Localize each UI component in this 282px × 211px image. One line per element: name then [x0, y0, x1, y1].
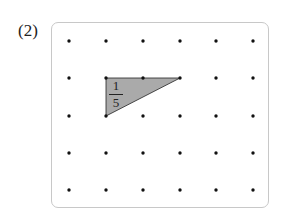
grid-dot — [251, 76, 254, 79]
grid-dot — [178, 114, 181, 117]
grid-dot — [251, 188, 254, 191]
grid-dot — [178, 188, 181, 191]
grid-dot — [214, 151, 217, 154]
grid-dot — [67, 76, 70, 79]
grid-dot — [141, 188, 144, 191]
grid-dot — [104, 151, 107, 154]
grid-dot — [104, 114, 107, 117]
grid-dot — [214, 76, 217, 79]
fraction-numerator: 1 — [113, 78, 120, 93]
grid-dot — [141, 114, 144, 117]
grid-dot — [251, 39, 254, 42]
grid-dot — [67, 114, 70, 117]
grid-dot — [141, 151, 144, 154]
grid-dot — [178, 151, 181, 154]
grid-dot — [251, 151, 254, 154]
grid-dot — [67, 151, 70, 154]
fraction-denominator: 5 — [113, 95, 120, 110]
grid-dot — [141, 39, 144, 42]
grid-dot — [251, 114, 254, 117]
grid-dot — [214, 39, 217, 42]
grid-dot — [141, 76, 144, 79]
grid-dots — [67, 39, 254, 191]
dot-grid-board — [0, 0, 282, 211]
grid-dot — [104, 188, 107, 191]
grid-dot — [178, 76, 181, 79]
grid-dot — [214, 114, 217, 117]
grid-dot — [104, 39, 107, 42]
grid-dot — [214, 188, 217, 191]
grid-dot — [67, 188, 70, 191]
grid-dot — [178, 39, 181, 42]
fraction-label: 1 5 — [109, 79, 123, 110]
grid-dot — [104, 76, 107, 79]
grid-dot — [67, 39, 70, 42]
